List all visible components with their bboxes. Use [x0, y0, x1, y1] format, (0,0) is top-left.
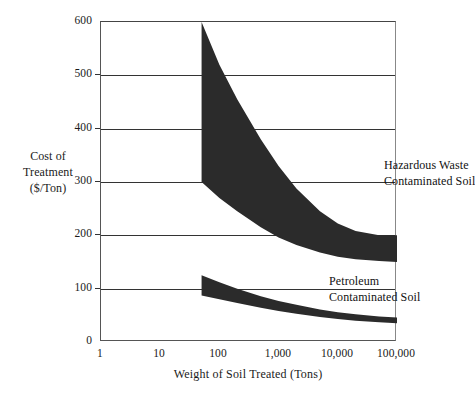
y-tick-label-400: 400 [58, 122, 92, 134]
annotation-hazardous-line-1: Hazardous Waste [384, 158, 475, 174]
y-axis-title: Cost of Treatment ($/Ton) [6, 148, 90, 196]
plot-area: Hazardous Waste Contaminated Soil Petrol… [100, 21, 396, 341]
annotation-petroleum-line-2: Contaminated Soil [329, 290, 420, 306]
annotation-petroleum-line-1: Petroleum [329, 274, 420, 290]
annotation-hazardous-line-2: Contaminated Soil [384, 174, 475, 190]
y-tick-label-600: 600 [58, 15, 92, 27]
y-axis-title-line-1: Cost of [6, 148, 90, 164]
band-hazardous-waste [202, 22, 397, 262]
y-tick-label-500: 500 [58, 68, 92, 80]
annotation-petroleum: Petroleum Contaminated Soil [329, 274, 420, 305]
x-tick-label-100000: 100,000 [361, 347, 431, 359]
y-tick-label-200: 200 [58, 228, 92, 240]
y-tick-label-0: 0 [58, 335, 92, 347]
y-tick-label-100: 100 [58, 282, 92, 294]
x-axis-title: Weight of Soil Treated (Tons) [100, 367, 396, 382]
y-tick-label-300: 300 [58, 175, 92, 187]
annotation-hazardous-waste: Hazardous Waste Contaminated Soil [384, 158, 475, 189]
